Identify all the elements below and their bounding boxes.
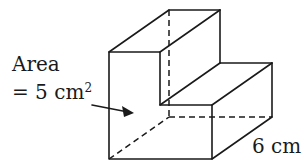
visible-edges — [109, 10, 272, 159]
area-label: Area — [12, 52, 60, 76]
area-exponent: 2 — [84, 81, 92, 95]
area-value: = 5 cm2 — [12, 80, 92, 104]
arrow-icon — [92, 105, 134, 117]
area-value-text: = 5 cm — [12, 80, 84, 104]
depth-label: 6 cm — [252, 134, 301, 158]
